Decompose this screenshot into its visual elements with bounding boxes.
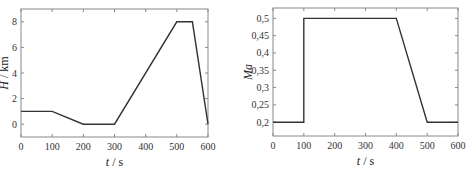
x-tick-label: 100	[296, 140, 311, 151]
x-tick-label: 300	[358, 140, 373, 151]
x-tick-label: 400	[389, 140, 404, 151]
y-axis-label: H / km	[0, 56, 11, 91]
x-tick-label: 300	[107, 141, 122, 152]
data-series-line	[21, 22, 208, 124]
y-tick-label: 0,45	[252, 30, 270, 41]
x-axis-label: t / s	[106, 155, 124, 169]
x-tick-label: 400	[138, 141, 153, 152]
x-tick-label: 100	[45, 141, 60, 152]
y-tick-label: 0,2	[257, 117, 270, 128]
x-tick-label: 200	[327, 140, 342, 151]
y-tick-label: 0,5	[257, 13, 270, 24]
data-series-line	[273, 18, 458, 122]
y-axis-label: Ma	[241, 64, 255, 81]
y-tick-label: 4	[12, 68, 17, 79]
x-tick-label: 600	[451, 140, 466, 151]
x-tick-label: 600	[201, 141, 216, 152]
x-tick-label: 200	[76, 141, 91, 152]
y-tick-label: 0,25	[252, 99, 270, 110]
y-tick-label: 0,4	[257, 47, 270, 58]
x-tick-label: 0	[19, 141, 24, 152]
y-tick-label: 6	[12, 42, 17, 53]
x-tick-label: 500	[169, 141, 184, 152]
x-tick-label: 500	[420, 140, 435, 151]
y-tick-label: 0	[12, 119, 17, 130]
y-tick-label: 0,3	[257, 82, 270, 93]
chart-2: 01002003004005006000,20,250,30,350,40,45…	[241, 8, 466, 168]
chart-canvas: 010020030040050060002468t / sH / km01002…	[0, 0, 467, 173]
plot-frame	[273, 8, 458, 136]
y-tick-label: 2	[12, 93, 17, 104]
x-tick-label: 0	[271, 140, 276, 151]
plot-frame	[21, 9, 208, 137]
y-tick-label: 8	[12, 16, 17, 27]
x-axis-label: t / s	[357, 154, 375, 168]
chart-1: 010020030040050060002468t / sH / km	[0, 9, 216, 169]
